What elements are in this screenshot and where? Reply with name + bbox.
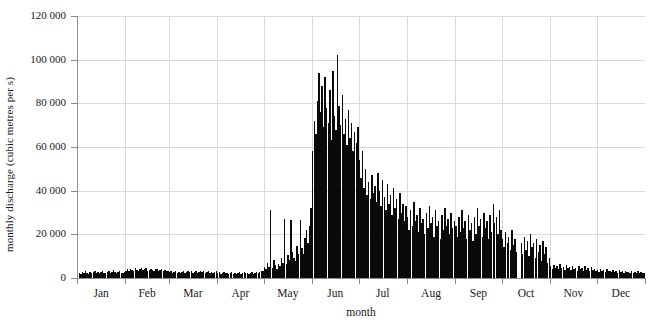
x-tick-label: Feb bbox=[122, 286, 172, 300]
x-tick-mark bbox=[359, 279, 360, 284]
x-tick-label: Jul bbox=[358, 286, 408, 300]
y-axis-line bbox=[77, 16, 78, 279]
x-tick-mark bbox=[407, 279, 408, 284]
y-tick-label: 120 000 bbox=[18, 10, 66, 21]
x-tick-label: Sep bbox=[453, 286, 503, 300]
y-tick-label: 100 000 bbox=[18, 54, 66, 65]
x-axis-title: month bbox=[77, 306, 645, 318]
y-tick-label: 40 000 bbox=[18, 185, 66, 196]
y-tick-label: 0 bbox=[18, 272, 66, 283]
bar bbox=[516, 252, 517, 278]
x-tick-mark bbox=[217, 279, 218, 284]
x-tick-label: Oct bbox=[501, 286, 551, 300]
x-tick-mark bbox=[312, 279, 313, 284]
x-tick-label: Jun bbox=[310, 286, 360, 300]
bar-series bbox=[77, 16, 645, 278]
x-tick-label: Jan bbox=[76, 286, 126, 300]
x-axis-line bbox=[77, 278, 646, 279]
y-tick-label: 20 000 bbox=[18, 228, 66, 239]
x-tick-label: Mar bbox=[168, 286, 218, 300]
x-tick-mark bbox=[645, 279, 646, 284]
x-tick-mark bbox=[77, 279, 78, 284]
y-tick-label: 60 000 bbox=[18, 141, 66, 152]
x-tick-mark bbox=[455, 279, 456, 284]
x-tick-label: Aug bbox=[406, 286, 456, 300]
plot-area bbox=[77, 16, 645, 278]
x-tick-label: Apr bbox=[215, 286, 265, 300]
x-tick-mark bbox=[550, 279, 551, 284]
x-tick-label: Nov bbox=[548, 286, 598, 300]
x-tick-mark bbox=[597, 279, 598, 284]
y-axis-title: monthly discharge (cubic metres per s) bbox=[0, 0, 18, 329]
x-tick-mark bbox=[502, 279, 503, 284]
y-axis-tick-labels: 020 00040 00060 00080 000100 000120 000 bbox=[18, 0, 66, 329]
discharge-bar-chart: monthly discharge (cubic metres per s) 0… bbox=[0, 0, 656, 329]
x-axis-tick-labels: JanFebMarAprMayJunJulAugSepOctNovDec bbox=[77, 286, 645, 302]
x-tick-mark bbox=[264, 279, 265, 284]
x-tick-label: May bbox=[263, 286, 313, 300]
y-tick-label: 80 000 bbox=[18, 97, 66, 108]
x-tick-mark bbox=[125, 279, 126, 284]
x-tick-mark bbox=[169, 279, 170, 284]
x-tick-label: Dec bbox=[596, 286, 646, 300]
